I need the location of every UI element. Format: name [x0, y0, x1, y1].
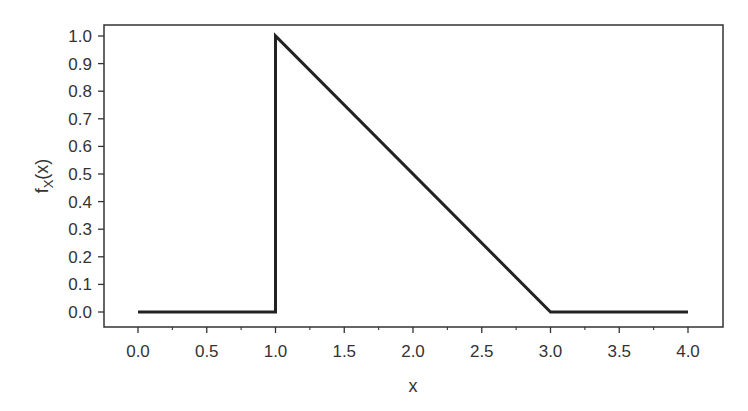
y-tick-label: 0.4: [68, 193, 92, 212]
y-axis-label: fX(x): [32, 159, 56, 194]
y-tick-label: 0.9: [68, 55, 92, 74]
x-tick-label: 2.5: [470, 342, 494, 361]
x-tick-label: 0.5: [195, 342, 219, 361]
y-tick-label: 0.0: [68, 303, 92, 322]
pdf-chart: 0.00.10.20.30.40.50.60.70.80.91.0 0.00.5…: [0, 0, 748, 411]
y-tick-label: 0.1: [68, 275, 92, 294]
x-tick-label: 3.5: [607, 342, 631, 361]
series-line: [138, 36, 688, 312]
y-tick-label: 0.2: [68, 248, 92, 267]
y-tick-label: 0.7: [68, 110, 92, 129]
y-axis: 0.00.10.20.30.40.50.60.70.80.91.0: [68, 27, 104, 322]
y-tick-label: 0.8: [68, 82, 92, 101]
data-series: [138, 36, 688, 312]
y-tick-label: 0.6: [68, 137, 92, 156]
y-tick-label: 0.3: [68, 220, 92, 239]
x-tick-label: 1.0: [264, 342, 288, 361]
x-tick-label: 3.0: [539, 342, 563, 361]
y-tick-label: 1.0: [68, 27, 92, 46]
x-axis-label: x: [409, 376, 418, 396]
x-tick-label: 4.0: [676, 342, 700, 361]
x-tick-label: 0.0: [126, 342, 150, 361]
x-axis: 0.00.51.01.52.02.53.03.54.0: [126, 327, 700, 361]
x-tick-label: 2.0: [401, 342, 425, 361]
x-tick-label: 1.5: [332, 342, 356, 361]
y-tick-label: 0.5: [68, 165, 92, 184]
